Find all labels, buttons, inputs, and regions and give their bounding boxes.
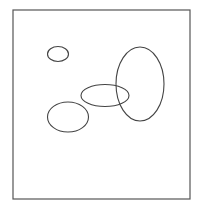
- small-ellipse: [48, 47, 69, 62]
- ellipse-group: [48, 47, 165, 133]
- horizontal-ellipse: [81, 85, 129, 107]
- vertical-ellipse: [116, 47, 164, 121]
- diagram-canvas: [0, 0, 200, 210]
- lower-left-ellipse: [48, 102, 89, 132]
- diagram-frame: [13, 10, 190, 199]
